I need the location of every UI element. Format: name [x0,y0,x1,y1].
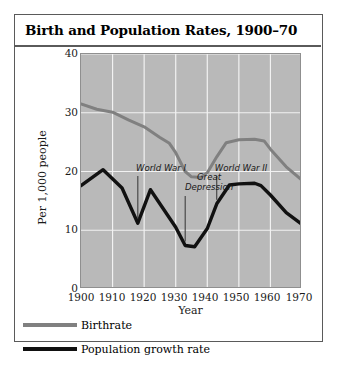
plot-area: World War I Great Depression World War I… [80,53,301,288]
chart-figure: Birth and Population Rates, 1900–70 40 3… [14,14,323,342]
legend-swatch-population-growth-rate [23,347,77,352]
y-axis-label: Per 1,000 people [36,118,49,238]
legend-item-birthrate: Birthrate [23,317,132,333]
legend-label-population-growth-rate: Population growth rate [81,343,210,356]
y-tick-30: 30 [48,106,78,118]
y-tick-20: 20 [48,165,78,177]
y-tick-10: 10 [48,223,78,235]
legend-item-population-growth-rate: Population growth rate [23,341,210,357]
x-tick-1900: 1900 [68,291,95,303]
plot-wrapper: 40 30 20 10 0 Per 1,000 people World War… [15,47,321,309]
x-tick-1960: 1960 [254,291,281,303]
legend-swatch-birthrate [23,323,77,327]
chart-legend: Birthrate Population growth rate [15,311,321,370]
x-tick-1970: 1970 [286,291,313,303]
x-tick-1930: 1930 [161,291,188,303]
x-tick-1940: 1940 [192,291,219,303]
x-tick-1910: 1910 [99,291,126,303]
y-tick-40: 40 [48,47,78,59]
legend-label-birthrate: Birthrate [81,319,132,332]
x-tick-1950: 1950 [223,291,250,303]
annotation-great-depression: Great Depression [178,173,240,192]
annotation-world-war-2: World War II [209,164,273,174]
chart-title: Birth and Population Rates, 1900–70 [25,22,297,38]
x-tick-1920: 1920 [130,291,157,303]
